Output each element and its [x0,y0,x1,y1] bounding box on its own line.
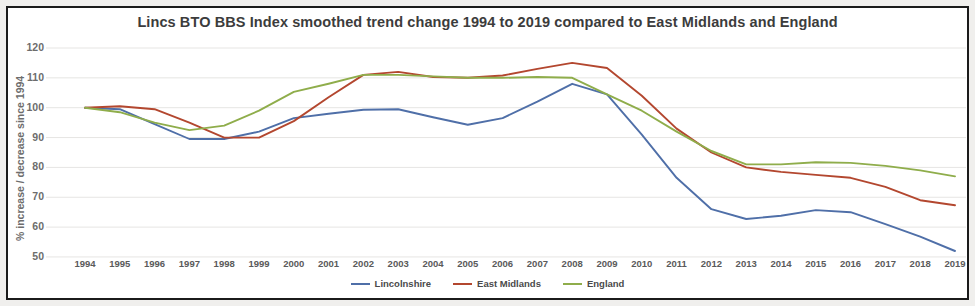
y-tick-label-60: 60 [6,220,44,232]
y-tick-label-100: 100 [6,101,44,113]
chart-legend: LincolnshireEast MidlandsEngland [0,278,975,289]
legend-swatch-icon [351,283,370,285]
series-line-england [85,75,955,176]
legend-item-england[interactable]: England [563,278,624,289]
legend-swatch-icon [453,283,472,285]
gridlines [46,48,966,257]
y-tick-label-80: 80 [6,160,44,172]
y-tick-label-70: 70 [6,190,44,202]
legend-swatch-icon [563,283,582,285]
chart-figure: Lincs BTO BBS Index smoothed trend chang… [0,0,975,306]
x-tick-label-2019: 2019 [935,258,975,269]
legend-label: England [587,278,624,289]
y-tick-label-90: 90 [6,131,44,143]
series-lines [85,63,955,251]
y-tick-label-110: 110 [6,71,44,83]
line-chart: Lincs BTO BBS Index smoothed trend chang… [0,0,975,306]
legend-label: East Midlands [477,278,541,289]
legend-label: Lincolnshire [375,278,431,289]
legend-item-lincolnshire[interactable]: Lincolnshire [351,278,431,289]
y-tick-label-120: 120 [6,41,44,53]
y-tick-label-50: 50 [6,250,44,262]
legend-item-east-midlands[interactable]: East Midlands [453,278,541,289]
series-line-east-midlands [85,63,955,205]
chart-title: Lincs BTO BBS Index smoothed trend chang… [0,14,975,30]
